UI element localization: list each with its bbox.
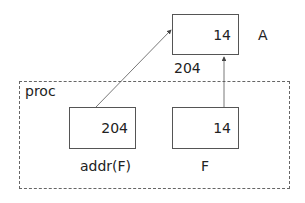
arrows-layer: [0, 0, 305, 203]
arrow-addrF-to-A: [96, 30, 171, 107]
